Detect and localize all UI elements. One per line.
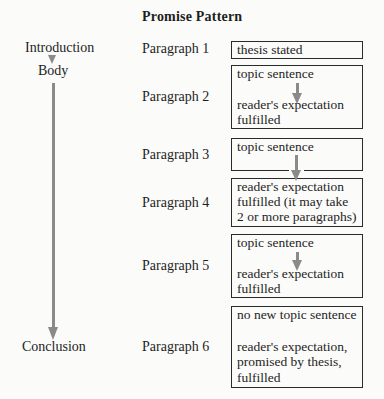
paragraph-label-1: Paragraph 1 (142, 41, 209, 57)
paragraph-box-4: reader's expectation fulfilled (it may t… (231, 178, 363, 227)
paragraph-box-1: thesis stated (231, 41, 363, 59)
box-5-line-3: fulfilled (237, 281, 281, 297)
box-1-line-1: thesis stated (237, 42, 303, 58)
paragraph-label-3: Paragraph 3 (142, 147, 209, 163)
box-4-line-2: fulfilled (it may take (237, 194, 348, 210)
box-5-line-2: reader's expectation (237, 266, 344, 282)
box-2-line-1: topic sentence (237, 66, 314, 82)
paragraph-label-5: Paragraph 5 (142, 258, 209, 274)
box-3-line-1: topic sentence (237, 139, 314, 155)
section-introduction: Introduction (25, 40, 94, 56)
paragraph-box-2: topic sentence reader's expectation fulf… (231, 65, 363, 129)
box-6-line-3: promised by thesis, (237, 354, 342, 370)
box-2-line-3: fulfilled (237, 112, 281, 128)
section-conclusion: Conclusion (22, 339, 86, 355)
body-to-conclusion-arrow-shaft (52, 83, 55, 329)
box-5-line-1: topic sentence (237, 235, 314, 251)
box-6-line-4: fulfilled (237, 370, 281, 386)
paragraph-label-4: Paragraph 4 (142, 195, 209, 211)
box-6-line-1: no new topic sentence (237, 307, 357, 323)
box-4-line-3: 2 or more paragraphs) (237, 209, 357, 225)
paragraph-label-6: Paragraph 6 (142, 339, 209, 355)
box-2-line-2: reader's expectation (237, 97, 344, 113)
box-6-line-2: reader's expectation, (237, 339, 347, 355)
paragraph-label-2: Paragraph 2 (142, 89, 209, 105)
diagram-title: Promise Pattern (142, 9, 242, 25)
paragraph-box-6: no new topic sentence reader's expectati… (231, 306, 363, 388)
paragraph-box-5: topic sentence reader's expectation fulf… (231, 234, 363, 298)
box-4-line-1: reader's expectation (237, 179, 344, 195)
section-body: Body (38, 63, 68, 79)
box-3-to-4-arrow-icon (291, 170, 301, 181)
